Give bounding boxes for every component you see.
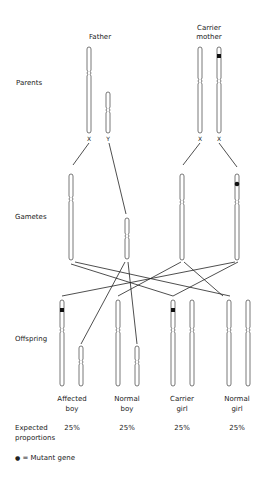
proportion-normal-boy: 25% [119,424,135,433]
gamete-mother-x [180,174,184,260]
offspring-normal-girl [227,300,250,386]
offspring-label-3a: Carrier [170,395,194,404]
mutant-gene-icon: ● [15,454,20,461]
proportion-affected-boy: 25% [64,424,80,433]
mutant-gene-marker [171,308,175,312]
offspring-carrier-girl [171,300,194,386]
mutant-gene-marker [60,308,64,312]
mutant-gene-marker [235,182,240,187]
expected-label-line1: Expected [15,424,48,433]
chromosome-label-father-y: Y [106,134,110,143]
offspring-label-2b: boy [121,405,134,414]
mother-label-line2: mother [196,33,221,42]
mutant-gene-marker [217,54,221,58]
row-label-gametes: Gametes [15,213,47,222]
father-y-chromosome [106,92,110,133]
proportion-carrier-girl: 25% [174,424,190,433]
chromosome-label-mother-x2: X [217,134,221,143]
mother-mutant-x-chromosome [217,47,221,133]
father-x-chromosome [87,47,91,133]
father-label: Father [89,33,111,42]
offspring-affected-boy [60,300,83,386]
gamete-father-y [125,218,129,259]
legend-text: = Mutant gene [22,454,75,462]
offspring-label-1b: boy [66,405,79,414]
chromosome-label-father-x: X [87,134,91,143]
gamete-mother-mutant-x [235,174,240,260]
offspring-label-2a: Normal [114,395,139,404]
mother-x-chromosome [198,47,202,133]
chromosome-label-mother-x1: X [198,134,202,143]
row-label-parents: Parents [16,79,42,88]
gamete-father-x [69,174,73,260]
offspring-label-4a: Normal [224,395,249,404]
mother-label-line1: Carrier [197,24,221,33]
legend: ● = Mutant gene [15,453,75,463]
proportion-normal-girl: 25% [229,424,245,433]
offspring-normal-boy [116,300,139,386]
row-label-offspring: Offspring [15,335,47,344]
offspring-label-4b: girl [231,405,242,414]
expected-label-line2: proportions [15,434,55,443]
offspring-label-3b: girl [176,405,187,414]
offspring-label-1a: Affected [57,395,86,404]
